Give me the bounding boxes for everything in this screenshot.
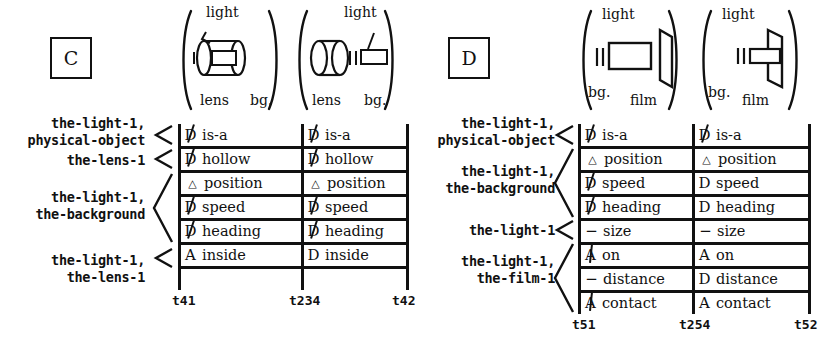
table-rule [178,266,409,269]
table-cell: △ position [309,173,386,193]
cell-symbol: △ [186,177,199,190]
table-cell: − size [585,221,631,241]
table-cell: D heading [307,221,384,241]
cell-text: heading [716,199,775,215]
cell-text: heading [325,223,384,239]
rowlabel-line: the-lens-1 [67,269,145,285]
panel-c-letter: C [64,47,79,69]
cell-symbol: D [307,246,320,264]
cell-symbol: D [307,198,320,216]
cell-symbol: △ [700,153,713,166]
table-cell: D hollow [184,149,250,169]
bracket-d-4 [551,242,575,318]
table-cell: D heading [184,221,261,241]
rowlabel-d-4: the-light-1, the-film-1 [410,253,555,287]
panel-d-letter-box: D [448,37,490,79]
panel-d: D light bg. film [420,0,828,355]
cell-symbol: − [585,270,598,288]
cell-text: speed [716,175,759,191]
cell-symbol: D [307,126,320,144]
table-cell: △ position [586,149,663,169]
pictogram-label-film: film [742,92,769,108]
cell-symbol: A [698,294,711,312]
panel-c-letter-box: C [50,37,92,79]
cell-text: hollow [202,151,250,167]
cell-symbol: − [585,222,598,240]
cell-text: size [603,223,631,239]
table-cell: A contact [584,293,657,313]
rowlabel-line: the-light-1, [461,253,555,269]
cell-text: distance [716,271,778,287]
cell-text: on [602,247,620,263]
pictogram-d-left: light bg. film [572,8,688,112]
table-cell: D distance [698,269,778,289]
cell-symbol: △ [309,177,322,190]
pictogram-label-lens: lens [200,92,229,108]
panel-c: C light lens bg. [0,0,420,355]
rowlabel-line: the-background [445,180,555,196]
cell-symbol: D [307,150,320,168]
table-cell: D is-a [698,125,742,145]
pictogram-d-right: light bg. film [692,8,808,112]
cell-text: on [716,247,734,263]
cell-symbol: A [698,246,711,264]
cell-text: distance [603,271,665,287]
bracket-c-3 [150,172,174,248]
bracket-c-2 [152,148,174,174]
table-cell: D heading [584,197,661,217]
rowlabel-line: the-light-1, [51,189,145,205]
table-cell: D speed [698,173,759,193]
cell-text: position [604,151,663,167]
table-cell: A inside [184,245,246,265]
table-cell: D speed [584,173,645,193]
table-cell: D is-a [584,125,628,145]
rowlabel-line: the-background [35,206,145,222]
table-cell: − size [699,221,745,241]
cell-symbol: D [584,198,597,216]
cell-symbol: D [698,126,711,144]
tick-label-end: t52 [794,317,817,332]
pictogram-label-bg: bg. [588,84,610,100]
table-cell: D is-a [184,125,228,145]
cell-symbol: A [584,294,597,312]
rowlabel-line: physical-object [438,132,555,148]
cell-text: position [204,175,263,191]
cell-text: is-a [325,127,351,143]
cell-symbol: D [184,222,197,240]
cell-text: speed [325,199,368,215]
tick-label-mid: t254 [679,317,710,332]
tick-label-start: t51 [572,317,595,332]
cell-symbol: A [584,246,597,264]
cell-symbol: D [584,174,597,192]
rowlabel-line: the-light-1, [51,115,145,131]
cell-text: heading [602,199,661,215]
rowlabel-d-3: the-light-1 [410,222,555,239]
rowlabel-d-2: the-light-1, the-background [410,163,555,197]
cell-symbol: D [698,270,711,288]
table-cell: D is-a [307,125,351,145]
table-cell: D inside [307,245,369,265]
cell-text: is-a [602,127,628,143]
rowlabel-line: the-lens-1 [67,152,145,168]
cell-text: hollow [325,151,373,167]
pictogram-label-bg: bg. [364,92,386,108]
cell-symbol: D [584,126,597,144]
cell-text: heading [202,223,261,239]
table-cell: D speed [184,197,245,217]
cell-symbol: A [184,246,197,264]
table-cell: D heading [698,197,775,217]
table-cell: A on [698,245,734,265]
cell-symbol: D [698,174,711,192]
cell-text: position [718,151,777,167]
table-cell: − distance [585,269,665,289]
bracket-c-4 [152,247,174,273]
cell-symbol: D [698,198,711,216]
pictogram-label-light: light [602,6,635,22]
table-cell: A on [584,245,620,265]
table-cell: △ position [186,173,263,193]
table-cell: D speed [307,197,368,217]
rowlabel-c-4: the-light-1, the-lens-1 [0,252,145,286]
rowlabel-c-2: the-lens-1 [0,152,145,169]
pictogram-label-light: light [344,4,377,20]
tick-label-start: t41 [172,293,195,308]
